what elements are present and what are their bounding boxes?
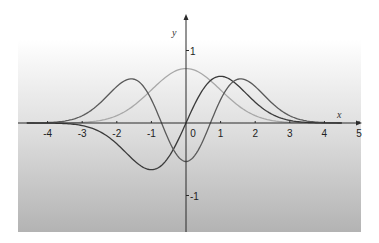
x-tick-label: 3 <box>287 128 293 139</box>
x-tick-label: -1 <box>147 128 156 139</box>
x-axis-label: x <box>336 109 342 120</box>
x-tick-label: 4 <box>322 128 328 139</box>
x-tick-label: 5 <box>356 128 362 139</box>
chart: -4-3-2-1012345 1-1 x y <box>0 0 379 243</box>
x-tick-label: 1 <box>218 128 224 139</box>
y-axis-arrow-icon <box>184 14 189 20</box>
y-axis-label: y <box>171 27 177 38</box>
y-tick-label: -1 <box>190 191 199 202</box>
x-tick-label: -4 <box>43 128 52 139</box>
x-tick-label: 0 <box>190 128 196 139</box>
x-tick-label: -2 <box>112 128 121 139</box>
y-tick-label: 1 <box>190 46 196 57</box>
x-tick-label: -3 <box>78 128 87 139</box>
x-tick-label: 2 <box>252 128 258 139</box>
